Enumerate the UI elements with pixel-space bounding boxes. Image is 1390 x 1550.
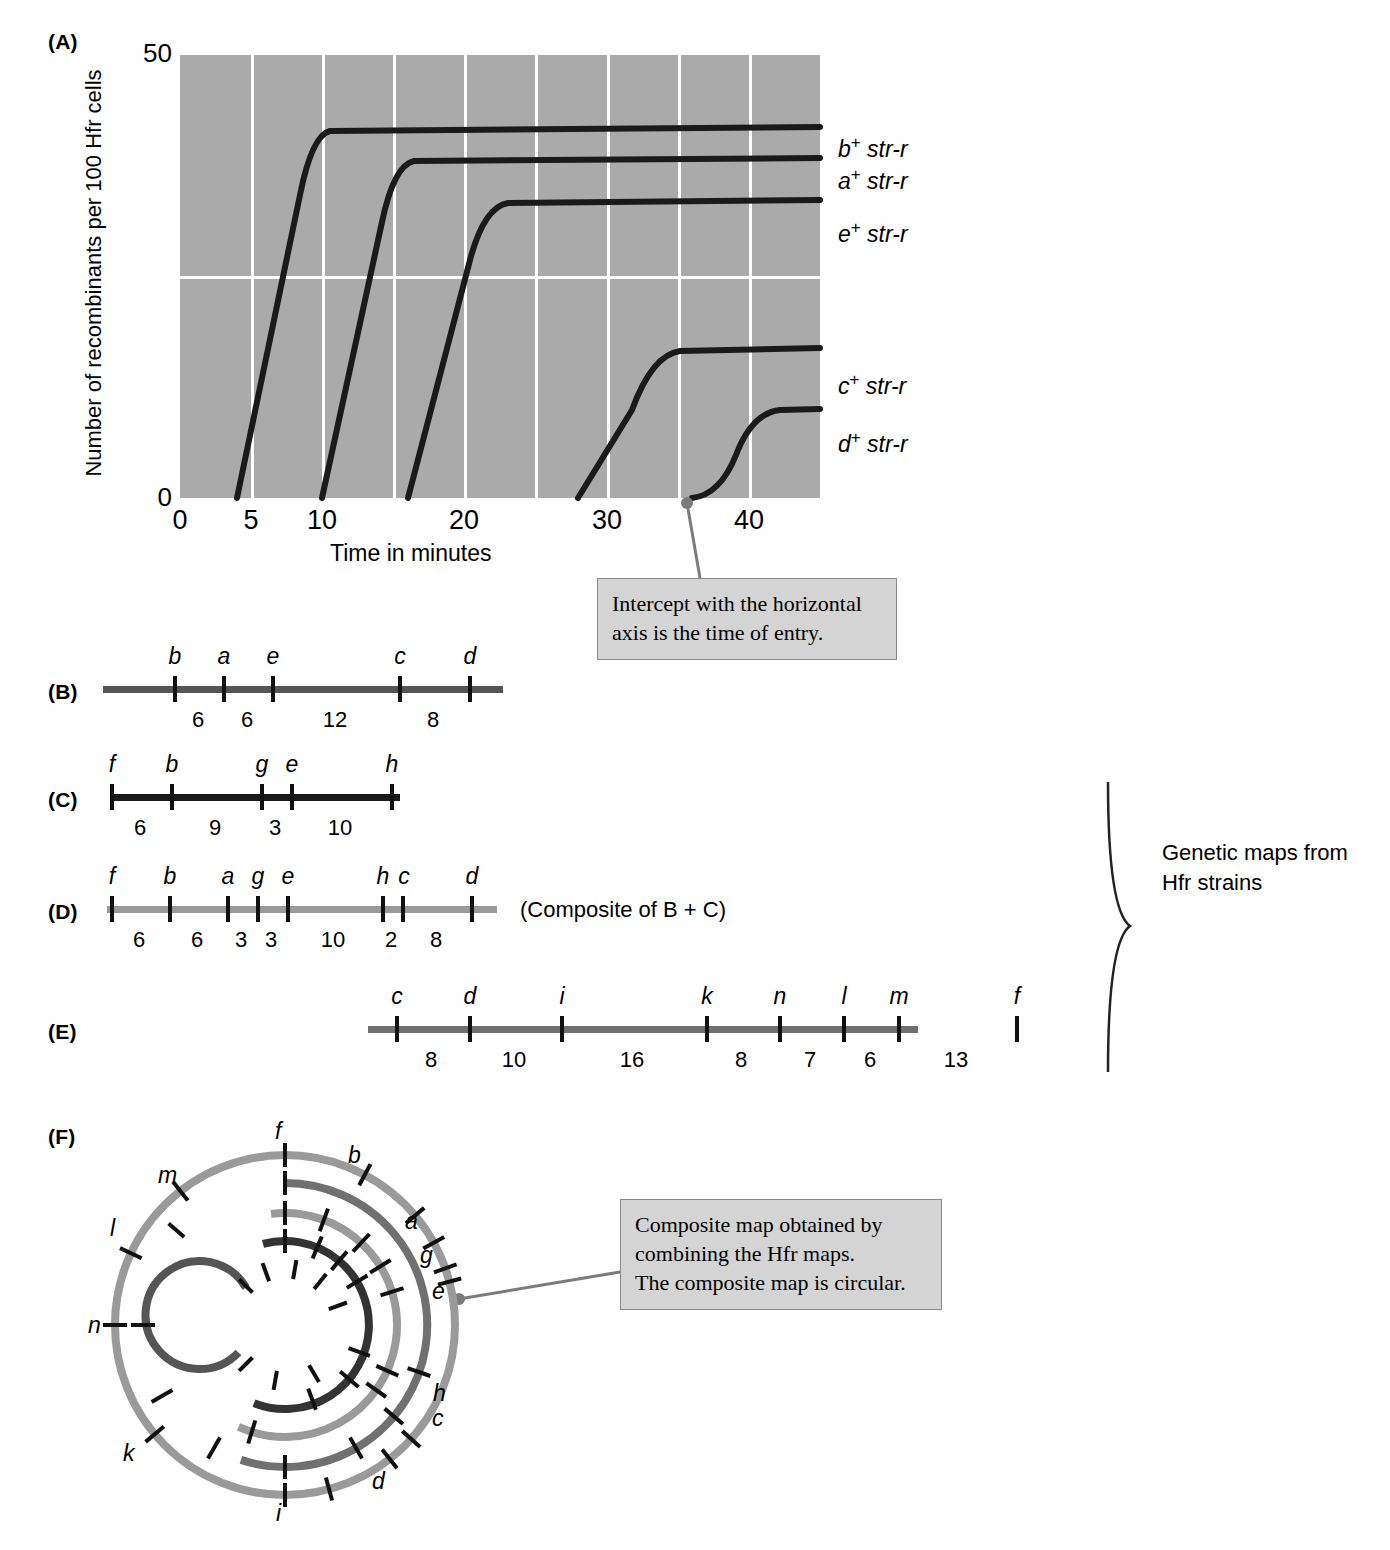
map-e-dist-6: 13 xyxy=(931,1047,981,1073)
map-b-gene-d: d xyxy=(450,643,490,670)
y-axis-tick-top: 50 xyxy=(112,38,172,69)
map-b-tick-e xyxy=(271,676,275,702)
panel-label-a: (A) xyxy=(48,30,78,54)
map-b-tick-d xyxy=(468,676,472,702)
map-b-tick-c xyxy=(398,676,402,702)
curve-label-sup: + xyxy=(851,133,861,152)
circ-label-k: k xyxy=(123,1440,135,1467)
map-e-gene-n: n xyxy=(760,983,800,1010)
map-c-dist-0: 6 xyxy=(115,815,165,841)
map-b-dist-0: 6 xyxy=(173,707,223,733)
curve-label-b-plus: b+ str-r xyxy=(838,133,908,163)
chart-curves xyxy=(180,55,820,498)
panel-label-e: (E) xyxy=(48,1020,77,1044)
map-c-tick-e xyxy=(290,784,294,810)
circ-label-e: e xyxy=(432,1278,445,1305)
circ-label-n: n xyxy=(88,1312,101,1339)
brace-bracket xyxy=(1100,780,1160,1080)
linear-map-c: (C) f b g e h 6 9 3 10 xyxy=(0,763,560,843)
map-e-gene-l: l xyxy=(824,983,864,1010)
circ-label-h: h xyxy=(433,1380,446,1407)
map-b-gene-c: c xyxy=(380,643,420,670)
curve-label-sup: + xyxy=(850,370,860,389)
map-d-tick-a xyxy=(226,896,230,922)
curve-label-suffix: str-r xyxy=(861,221,908,247)
panel-label-b: (B) xyxy=(48,680,78,704)
map-d-tick-e xyxy=(286,896,290,922)
map-e-tick-l xyxy=(842,1016,846,1042)
brace-label-line2: Hfr strains xyxy=(1162,868,1348,898)
map-e-dist-2: 16 xyxy=(607,1047,657,1073)
curve-b-plus xyxy=(237,127,820,498)
map-e-tick-c xyxy=(395,1016,399,1042)
map-e-dist-4: 7 xyxy=(785,1047,835,1073)
map-e-dist-0: 8 xyxy=(406,1047,456,1073)
curve-label-gene: a xyxy=(838,168,851,194)
callout-intercept-line2: axis is the time of entry. xyxy=(612,618,882,647)
x-tick-0: 0 xyxy=(150,505,210,536)
curve-d-plus xyxy=(692,409,820,498)
map-c-gene-h: h xyxy=(372,751,412,778)
map-e-dist-5: 6 xyxy=(845,1047,895,1073)
map-e-gene-i: i xyxy=(542,983,582,1010)
map-b-line xyxy=(103,686,503,693)
curve-label-gene: e xyxy=(838,221,851,247)
linear-map-b: (B) b a e c d 6 6 12 8 xyxy=(0,655,560,735)
curve-label-suffix: str-r xyxy=(861,168,908,194)
map-d-tick-f xyxy=(110,896,114,922)
circ-label-i: i xyxy=(276,1500,281,1527)
x-tick-10: 10 xyxy=(292,505,352,536)
map-d-gene-d: d xyxy=(452,863,492,890)
x-tick-20: 20 xyxy=(434,505,494,536)
map-d-gene-f: f xyxy=(92,863,132,890)
map-e-gene-m: m xyxy=(879,983,919,1010)
map-c-gene-f: f xyxy=(92,751,132,778)
map-d-tick-b xyxy=(168,896,172,922)
map-c-dist-3: 10 xyxy=(315,815,365,841)
panel-a-chart: (A) 50 0 Number of recombinants per 100 … xyxy=(0,0,1100,570)
map-d-tick-c xyxy=(401,896,405,922)
map-e-line xyxy=(368,1026,918,1033)
map-d-dist-5: 2 xyxy=(366,927,416,953)
curve-label-gene: d xyxy=(838,431,851,457)
map-e-tick-m xyxy=(897,1016,901,1042)
map-b-gene-a: a xyxy=(204,643,244,670)
map-b-gene-b: b xyxy=(155,643,195,670)
map-b-gene-e: e xyxy=(253,643,293,670)
map-d-gene-b: b xyxy=(150,863,190,890)
map-e-tick-d xyxy=(468,1016,472,1042)
map-d-tick-g xyxy=(256,896,260,922)
ring-innermost-ticks xyxy=(239,1260,347,1390)
chart-plot-area xyxy=(180,55,820,498)
map-e-gene-c: c xyxy=(377,983,417,1010)
map-d-tick-h xyxy=(381,896,385,922)
circ-label-g: g xyxy=(420,1242,433,1269)
curve-label-d-plus: d+ str-r xyxy=(838,428,908,458)
ring-innermost xyxy=(145,1261,246,1369)
linear-map-e: (E) c d i k n l m f 8 10 16 8 7 6 13 xyxy=(0,995,1000,1075)
composite-note: (Composite of B + C) xyxy=(520,897,726,923)
callout-intercept-line1: Intercept with the horizontal xyxy=(612,589,882,618)
map-e-gene-f: f xyxy=(997,983,1037,1010)
panel-label-d: (D) xyxy=(48,900,78,924)
map-e-tick-n xyxy=(778,1016,782,1042)
map-b-dist-1: 6 xyxy=(222,707,272,733)
curve-label-suffix: str-r xyxy=(859,373,906,399)
brace-label-line1: Genetic maps from xyxy=(1162,838,1348,868)
map-c-gene-b: b xyxy=(152,751,192,778)
curve-label-suffix: str-r xyxy=(861,136,908,162)
circ-label-m: m xyxy=(158,1162,177,1189)
map-c-dist-1: 9 xyxy=(190,815,240,841)
map-b-dist-2: 12 xyxy=(310,707,360,733)
brace-label: Genetic maps from Hfr strains xyxy=(1162,838,1348,897)
map-d-dist-1: 6 xyxy=(172,927,222,953)
map-e-gene-k: k xyxy=(687,983,727,1010)
map-d-dist-6: 8 xyxy=(411,927,461,953)
map-d-dist-4: 10 xyxy=(308,927,358,953)
map-e-tick-f xyxy=(1015,1016,1019,1042)
curve-label-sup: + xyxy=(851,218,861,237)
map-d-gene-c: c xyxy=(384,863,424,890)
map-e-tick-k xyxy=(705,1016,709,1042)
circ-label-d: d xyxy=(372,1468,385,1495)
map-e-tick-i xyxy=(560,1016,564,1042)
